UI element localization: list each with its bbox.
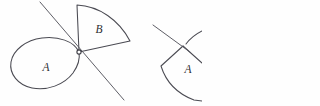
right-tangent-line [153,25,190,52]
region-b-label: B [95,23,102,35]
tangent-line [40,2,124,100]
right-arc-top [186,31,202,44]
vertex-point [77,50,81,54]
region-a-label: A [41,61,50,73]
right-diagram: A [153,25,202,101]
geometry-figure: A B A [0,0,202,106]
left-diagram: A B [11,2,130,100]
region-b-sector [77,5,130,52]
right-region-a-sector [161,46,202,101]
right-region-a-label: A [183,63,192,75]
figure-canvas: A B A [0,0,202,106]
